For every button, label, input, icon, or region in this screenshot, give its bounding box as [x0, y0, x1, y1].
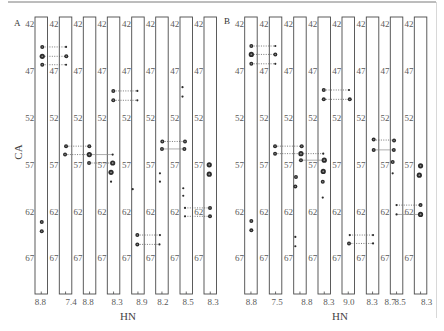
peak [183, 139, 187, 143]
y-tick-label: 52 [194, 113, 203, 123]
peak-contour-center [275, 54, 276, 55]
x-tick-label: 7.4 [65, 297, 77, 307]
y-tick-label: 47 [357, 66, 367, 76]
peak [111, 89, 115, 93]
strip-plot-canvas: A B CA HN HN 424752576267424752576267424… [0, 0, 444, 331]
x-tick-label: 8.3 [421, 297, 433, 307]
y-tick-label: 57 [50, 160, 60, 170]
peak-contour-center [113, 90, 114, 91]
y-tick-label: 52 [308, 113, 317, 123]
peak [159, 172, 161, 174]
peak-marker [395, 204, 397, 206]
peak [299, 158, 303, 162]
peak [63, 153, 67, 157]
y-tick-label: 42 [332, 19, 341, 29]
peak [300, 144, 304, 148]
peak [392, 172, 394, 174]
peak [87, 144, 91, 148]
peak-contour-center [323, 159, 325, 161]
peak-contour-center [137, 244, 138, 245]
y-tick-label: 47 [146, 66, 156, 76]
peak-contour-center [66, 56, 67, 57]
peak [417, 173, 422, 178]
y-tick-label: 67 [332, 253, 342, 263]
peak-contour-center [348, 243, 349, 244]
peak [160, 147, 164, 151]
peak-marker [159, 181, 161, 183]
peak-marker [395, 213, 397, 215]
x-tick-label: 8.8 [301, 297, 313, 307]
peak [392, 148, 396, 152]
peak [112, 153, 114, 155]
y-tick-label: 47 [260, 66, 270, 76]
peak-contour-center [184, 148, 185, 149]
y-tick-label: 67 [146, 253, 156, 263]
peak-marker [159, 172, 161, 174]
y-tick-label: 47 [25, 66, 35, 76]
x-tick-label: 7.5 [271, 297, 283, 307]
peak [349, 234, 351, 236]
peak-marker [110, 181, 112, 183]
peak-marker [322, 197, 324, 199]
y-axis-label: CA [12, 144, 24, 159]
peak-marker [349, 234, 351, 236]
peak-marker [182, 195, 184, 197]
peak [158, 243, 160, 245]
peak [108, 170, 113, 175]
y-tick-label: 47 [170, 66, 180, 76]
peak [249, 52, 254, 57]
peak [273, 52, 277, 56]
y-tick-label: 42 [357, 19, 366, 29]
peak-contour-center [418, 174, 420, 176]
strip-frame [414, 17, 427, 294]
y-tick-label: 42 [170, 19, 179, 29]
peak [273, 152, 277, 156]
peak [110, 160, 115, 165]
peak [87, 161, 91, 165]
y-tick-label: 42 [405, 19, 414, 29]
y-tick-label: 52 [357, 113, 366, 123]
y-tick-label: 42 [308, 19, 317, 29]
peak [110, 181, 112, 183]
y-tick-label: 62 [170, 207, 179, 217]
y-tick-label: 67 [74, 253, 84, 263]
peak-contour-center [208, 164, 210, 166]
y-tick-label: 62 [308, 207, 317, 217]
y-tick-label: 57 [25, 160, 35, 170]
peak-contour-center [65, 145, 66, 146]
x-tick-label: 8.8 [82, 297, 94, 307]
peak-contour-center [295, 176, 296, 177]
y-tick-label: 42 [284, 19, 293, 29]
y-tick-label: 52 [381, 113, 390, 123]
peak [395, 204, 397, 206]
y-tick-label: 52 [170, 113, 179, 123]
peak [159, 181, 161, 183]
y-tick-label: 57 [260, 160, 270, 170]
peak-marker [182, 187, 184, 189]
peak [40, 63, 44, 67]
y-tick-label: 47 [194, 66, 204, 76]
y-tick-label: 62 [74, 207, 83, 217]
y-tick-label: 62 [146, 207, 155, 217]
peak-marker [132, 188, 134, 190]
peak-contour-center [113, 100, 114, 101]
peak-contour-center [300, 159, 301, 160]
y-tick-label: 62 [332, 207, 341, 217]
y-tick-label: 67 [122, 253, 132, 263]
strip-frame [156, 17, 169, 294]
peak-contour-center [301, 145, 302, 146]
y-tick-label: 67 [405, 253, 415, 263]
y-tick-label: 42 [25, 19, 34, 29]
peak-marker [372, 234, 374, 236]
peak [418, 212, 423, 217]
y-tick-label: 67 [284, 253, 294, 263]
peak-contour-center [208, 173, 210, 175]
y-tick-label: 57 [170, 160, 180, 170]
peak [135, 233, 139, 237]
peak [135, 242, 139, 246]
y-tick-label: 62 [235, 207, 244, 217]
peak-marker [65, 46, 67, 48]
peak [294, 245, 296, 247]
peak [181, 86, 183, 88]
peak-contour-center [41, 55, 43, 57]
